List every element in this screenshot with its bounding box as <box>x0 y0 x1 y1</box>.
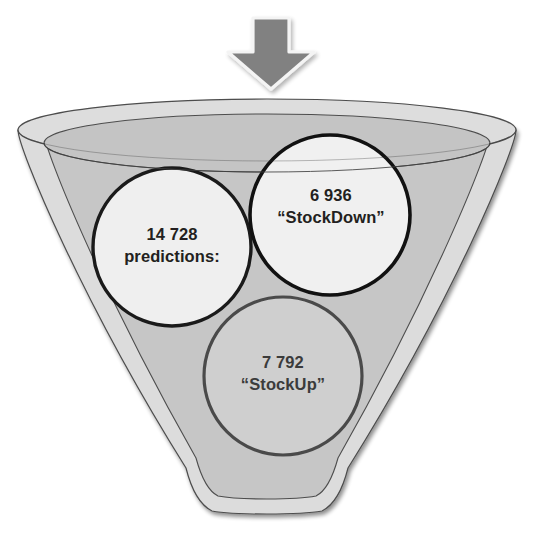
down-arrow-icon <box>228 18 314 89</box>
diagram-canvas: 14 728 predictions: 6 936 “StockDown” 7 … <box>0 0 534 541</box>
input-arrow <box>228 18 314 89</box>
funnel-diagram <box>0 0 534 541</box>
circle-predictions[interactable] <box>93 168 251 326</box>
circle-stockdown[interactable] <box>250 135 410 295</box>
circle-stockup[interactable] <box>204 297 362 455</box>
